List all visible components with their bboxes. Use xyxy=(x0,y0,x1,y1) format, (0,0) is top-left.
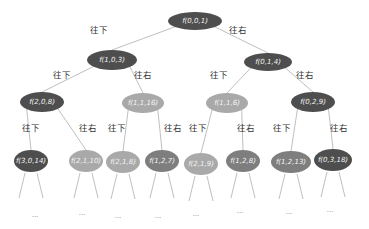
ellipsis-marker: ... xyxy=(193,210,200,218)
tree-node: f(0,0,1) xyxy=(168,12,222,30)
continuation-line xyxy=(19,173,25,198)
edge-label-right: 往右 xyxy=(79,123,97,133)
edge-down xyxy=(227,67,251,93)
ellipsis-marker: ... xyxy=(237,207,244,215)
ellipsis-marker: ... xyxy=(32,211,39,219)
node-label: f(2,0,8) xyxy=(29,98,55,106)
edge-labels: 往下往右往下往右往下往右往下往右往下往右往下往右往下往右 xyxy=(22,25,348,133)
tree-node: f(1,1,6) xyxy=(206,93,248,113)
node-label: f(3,0,14) xyxy=(16,157,46,165)
continuation-line xyxy=(231,173,237,198)
node-label: f(0,1,4) xyxy=(255,58,281,66)
continuation-line xyxy=(279,174,285,199)
leaf-continuation-lines xyxy=(19,172,345,201)
edge-label-down: 往下 xyxy=(22,123,40,133)
tree-node: f(3,0,14) xyxy=(14,150,48,172)
tree-node: f(0,3,18) xyxy=(314,149,352,171)
tree-node: f(1,1,16) xyxy=(122,93,164,113)
continuation-line xyxy=(189,176,195,201)
node-label: f(1,0,3) xyxy=(99,56,125,64)
node-label: f(1,2,13) xyxy=(276,158,306,166)
tree-node: f(2,1,10) xyxy=(69,150,103,172)
ellipsis-marker: ... xyxy=(327,206,334,214)
tree-node: f(1,2,7) xyxy=(145,150,179,172)
continuation-line xyxy=(249,173,255,198)
continuation-line xyxy=(92,173,98,198)
ellipsis-marker: ... xyxy=(115,212,122,220)
ellipsis-marker: ... xyxy=(79,209,86,217)
edge-label-right: 往右 xyxy=(330,123,348,133)
node-label: f(0,0,1) xyxy=(182,17,208,25)
edge-label-down: 往下 xyxy=(90,25,108,35)
edge-label-right: 往右 xyxy=(164,123,182,133)
edge-label-down: 往下 xyxy=(210,70,228,80)
continuation-line xyxy=(297,174,303,199)
continuation-line xyxy=(321,172,327,197)
tree-nodes: f(0,0,1)f(1,0,3)f(0,1,4)f(2,0,8)f(1,1,16… xyxy=(14,12,352,175)
edge-label-down: 往下 xyxy=(189,123,207,133)
continuation-line xyxy=(150,173,156,198)
edge-label-right: 往右 xyxy=(134,70,152,80)
ellipsis-marker: ... xyxy=(155,212,162,220)
continuation-ellipses: ........................ xyxy=(32,206,334,220)
edge-down xyxy=(291,108,298,151)
continuation-line xyxy=(37,173,43,198)
edge-label-down: 往下 xyxy=(273,123,291,133)
continuation-line xyxy=(129,174,135,199)
continuation-line xyxy=(339,172,345,197)
tree-node: f(0,2,9) xyxy=(291,92,335,112)
tree-node: f(1,2,13) xyxy=(271,151,311,173)
edge-label-down: 往下 xyxy=(108,123,126,133)
continuation-line xyxy=(168,173,174,198)
edge-label-right: 往右 xyxy=(296,70,314,80)
continuation-line xyxy=(74,173,80,198)
edge-down xyxy=(112,26,176,50)
tree-node: f(1,0,3) xyxy=(87,50,137,70)
node-label: f(1,1,6) xyxy=(214,99,240,107)
tree-node: f(2,0,8) xyxy=(20,92,64,112)
node-label: f(2,1,10) xyxy=(71,157,101,165)
ellipsis-marker: ... xyxy=(286,208,293,216)
continuation-line xyxy=(111,174,117,199)
tree-node: f(2,1,8) xyxy=(106,151,140,173)
recursion-tree-diagram: f(0,0,1)f(1,0,3)f(0,1,4)f(2,0,8)f(1,1,16… xyxy=(0,0,369,229)
node-label: f(2,1,8) xyxy=(110,158,136,166)
edge-label-right: 往右 xyxy=(237,123,255,133)
tree-node: f(2,1,9) xyxy=(184,153,218,175)
node-label: f(1,1,16) xyxy=(128,99,158,107)
node-label: f(0,2,9) xyxy=(300,98,326,106)
tree-edges xyxy=(27,26,333,153)
edge-right xyxy=(158,109,162,150)
node-label: f(1,2,8) xyxy=(230,157,256,165)
edge-label-right: 往右 xyxy=(229,25,247,35)
tree-node: f(0,1,4) xyxy=(244,53,292,71)
node-label: f(1,2,7) xyxy=(149,157,175,165)
continuation-line xyxy=(207,176,213,201)
tree-node: f(1,2,8) xyxy=(226,150,260,172)
node-label: f(2,1,9) xyxy=(188,160,214,168)
node-label: f(0,3,18) xyxy=(318,156,348,164)
edge-label-down: 往下 xyxy=(53,70,71,80)
